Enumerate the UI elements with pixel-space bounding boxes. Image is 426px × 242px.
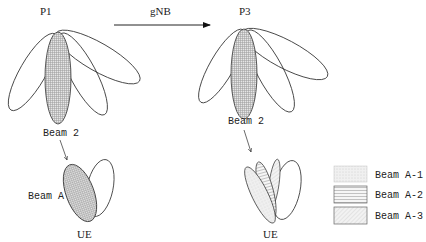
ue-label-p1: UE	[77, 228, 92, 240]
beam-diagram: P1 Beam 2 Beam A UE gNB P3 Beam 2 UE	[0, 0, 426, 242]
legend-label: Beam A-1	[375, 170, 423, 181]
ue-label-p3: UE	[263, 228, 278, 240]
ue-beams-p1	[57, 157, 119, 226]
beam-2-label-p3: Beam 2	[228, 116, 264, 127]
ue-beams-p3	[239, 158, 306, 226]
legend-swatch-dotted	[334, 166, 367, 182]
legend: Beam A-1 Beam A-2 Beam A-3	[334, 166, 423, 224]
panel-title-p3: P3	[239, 5, 251, 17]
legend-label: Beam A-2	[375, 190, 423, 201]
beam-2-label-p1: Beam 2	[43, 128, 79, 139]
gnb-label: gNB	[150, 5, 171, 17]
beam-2-to-ue-arrow-p3	[244, 130, 251, 152]
legend-item-beam-a-3: Beam A-3	[334, 207, 423, 224]
gnb-beams-p1	[0, 21, 147, 124]
beam-2-shaded	[45, 32, 71, 124]
beam-2-to-ue-arrow-p1	[60, 140, 67, 160]
beam-a-label: Beam A	[28, 191, 64, 202]
legend-swatch-diagonal-hatch	[334, 207, 367, 224]
gnb-beams-p3	[191, 19, 334, 119]
beam-2-shaded	[231, 29, 257, 119]
legend-label: Beam A-3	[375, 211, 423, 222]
legend-item-beam-a-2: Beam A-2	[334, 186, 423, 203]
legend-item-beam-a-1: Beam A-1	[334, 166, 423, 182]
legend-swatch-horizontal-lines	[334, 186, 367, 203]
panel-title-p1: P1	[40, 5, 52, 17]
